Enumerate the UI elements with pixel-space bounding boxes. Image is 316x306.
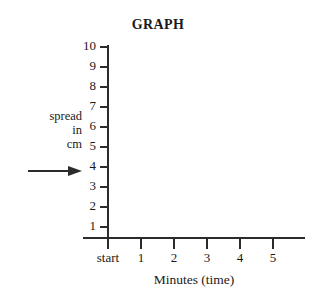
x-axis-tick (206, 239, 208, 249)
graph-figure: GRAPH 10987654321 start12345 spreadincm … (0, 0, 316, 306)
y-axis-tick (100, 146, 107, 148)
x-axis-tick (140, 239, 142, 249)
y-axis-tick (100, 46, 107, 48)
y-axis-tick (100, 66, 107, 68)
y-axis-tick (100, 106, 107, 108)
y-axis-tick (100, 226, 107, 228)
x-axis-tick (173, 239, 175, 249)
y-axis-tick-label-text: 3 (56, 179, 96, 192)
y-axis-tick (100, 86, 107, 88)
x-axis-title: Minutes (time) (83, 272, 305, 288)
y-axis-tick (100, 166, 107, 168)
x-axis-tick (107, 239, 109, 249)
y-axis-title-line: cm (2, 137, 82, 151)
y-axis-tick (100, 186, 107, 188)
x-axis-tick-label: 5 (243, 251, 303, 265)
plot-area (109, 45, 305, 237)
y-axis-tick-label-text: 2 (56, 199, 96, 212)
x-axis-tick (239, 239, 241, 249)
y-axis-tick-label-text: 8 (56, 79, 96, 92)
y-axis-tick-label-text: 1 (56, 219, 96, 232)
y-axis-tick-label-text: 9 (56, 59, 96, 72)
y-axis-tick (100, 126, 107, 128)
y-axis-title-line: spread (2, 109, 82, 123)
chart-title: GRAPH (0, 17, 316, 33)
y-axis-title-line: in (2, 123, 82, 137)
y-axis-tick (100, 206, 107, 208)
y-axis-tick-label-text: 10 (56, 39, 96, 52)
right-arrow-icon (28, 163, 82, 175)
y-axis-line (107, 45, 109, 249)
x-axis-tick (272, 239, 274, 249)
y-axis-title: spreadincm (2, 109, 82, 151)
